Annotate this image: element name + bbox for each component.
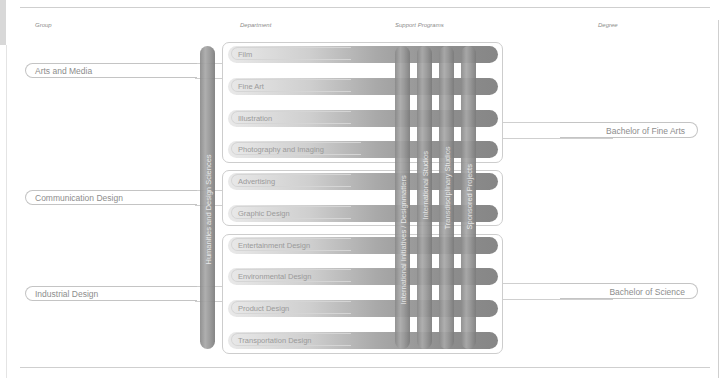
department-label: Photography and Imaging (231, 142, 361, 155)
department-label: Entertainment Design (231, 238, 351, 251)
department-advertising[interactable]: Advertising (228, 173, 498, 190)
right-rule (718, 20, 719, 378)
department-label: Product Design (231, 301, 351, 314)
header-degree: Degree (598, 22, 618, 28)
department-label: Fine Art (231, 79, 351, 92)
department-label: Advertising (231, 174, 351, 187)
degree-bs[interactable]: Bachelor of Science (560, 283, 698, 299)
department-label: Environmental Design (231, 269, 351, 282)
header-support-programs: Support Programs (395, 22, 444, 28)
department-label: Graphic Design (231, 206, 351, 219)
top-rule (20, 7, 710, 8)
bar-label: International Studios (420, 151, 429, 219)
department-label: Transportation Design (231, 333, 351, 346)
department-label: Film (231, 47, 351, 60)
bar-label: International Initiatives / Designmatter… (398, 175, 407, 304)
department-film[interactable]: Film (228, 46, 498, 63)
support-international-initiatives-bar[interactable]: International Initiatives / Designmatter… (395, 46, 410, 349)
bar-label: Humanities and Design Sciences (203, 154, 212, 264)
support-international-studios-bar[interactable]: International Studios (417, 46, 432, 349)
department-illustration[interactable]: Illustration (228, 110, 498, 127)
bar-label: Transdisciplinary Studios (442, 146, 451, 229)
header-group: Group (35, 22, 52, 28)
support-transdisciplinary-studios-bar[interactable]: Transdisciplinary Studios (439, 46, 454, 349)
connector (503, 138, 613, 139)
department-environmental-design[interactable]: Environmental Design (228, 268, 498, 285)
left-rule (6, 45, 7, 378)
bar-label: Sponsored Projects (464, 164, 473, 229)
left-edge-strip (0, 0, 6, 45)
support-sponsored-projects-bar[interactable]: Sponsored Projects (461, 46, 476, 349)
bottom-rule (20, 367, 710, 368)
department-graphic-design[interactable]: Graphic Design (228, 205, 498, 222)
connector (503, 299, 613, 300)
department-label: Illustration (231, 111, 351, 124)
department-fine-art[interactable]: Fine Art (228, 78, 498, 95)
department-photography[interactable]: Photography and Imaging (228, 141, 498, 158)
department-entertainment-design[interactable]: Entertainment Design (228, 237, 498, 254)
header-department: Department (240, 22, 271, 28)
group-industrial-design[interactable]: Industrial Design (25, 286, 197, 301)
group-communication-design[interactable]: Communication Design (25, 190, 197, 205)
humanities-design-sciences-bar[interactable]: Humanities and Design Sciences (200, 46, 215, 349)
degree-bfa[interactable]: Bachelor of Fine Arts (560, 122, 698, 138)
department-product-design[interactable]: Product Design (228, 300, 498, 317)
department-transportation-design[interactable]: Transportation Design (228, 332, 498, 349)
group-arts-and-media[interactable]: Arts and Media (25, 63, 197, 78)
